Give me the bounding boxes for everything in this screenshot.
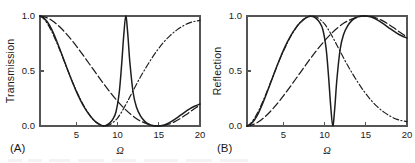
- curve-dash-dot: [40, 16, 200, 126]
- x-tick-label-2: 15: [153, 129, 164, 140]
- x-axis-title: Ω: [116, 145, 124, 156]
- curve-solid: [247, 16, 407, 126]
- panel-a-plot: 0.00.51.05101520TransmissionΩ(A): [0, 0, 207, 163]
- y-axis-title: Reflection: [211, 47, 223, 96]
- plot-frame: [247, 16, 407, 126]
- y-tick-label-1: 0.5: [22, 65, 35, 76]
- x-axis-title: Ω: [323, 145, 331, 156]
- x-tick-label-0: 5: [281, 129, 286, 140]
- x-tick-label-2: 15: [360, 129, 371, 140]
- x-tick-label-3: 20: [195, 129, 206, 140]
- y-tick-label-0: 0.0: [22, 120, 35, 131]
- panel-label: (A): [10, 142, 26, 154]
- panel-b-plot: 0.00.51.05101520ReflectionΩ(B): [207, 0, 414, 163]
- y-tick-label-0: 0.0: [229, 120, 242, 131]
- curve-solid: [40, 16, 200, 126]
- curve-long-dash: [40, 16, 200, 126]
- curve-long-dash: [247, 16, 407, 126]
- y-axis-title: Transmission: [4, 39, 16, 103]
- caption-smudge: [8, 159, 248, 162]
- y-tick-label-2: 1.0: [22, 10, 35, 21]
- panel-b: 0.00.51.05101520ReflectionΩ(B): [207, 0, 414, 163]
- panel-label: (B): [217, 142, 233, 154]
- panel-a: 0.00.51.05101520TransmissionΩ(A): [0, 0, 207, 163]
- y-tick-label-1: 0.5: [229, 65, 242, 76]
- x-tick-label-1: 10: [112, 129, 123, 140]
- plot-frame: [40, 16, 200, 126]
- x-tick-label-3: 20: [402, 129, 413, 140]
- curve-dash-dot: [247, 16, 407, 126]
- figure-container: 0.00.51.05101520TransmissionΩ(A) 0.00.51…: [0, 0, 415, 163]
- x-tick-label-0: 5: [74, 129, 79, 140]
- x-tick-label-1: 10: [319, 129, 330, 140]
- y-tick-label-2: 1.0: [229, 10, 242, 21]
